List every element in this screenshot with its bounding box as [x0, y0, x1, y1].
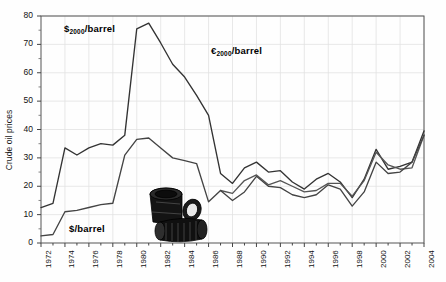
dollar2000-label: $2000/barrel — [64, 23, 115, 34]
y-tick-label-80: 80 — [11, 11, 33, 20]
x-tick-label-1974: 1974 — [68, 250, 76, 268]
x-tick-label-1986: 1986 — [212, 250, 220, 268]
x-tick-label-1982: 1982 — [164, 250, 172, 268]
y-axis-title-wrap: Crude oil prices — [2, 60, 16, 220]
x-tick-label-1998: 1998 — [356, 250, 364, 268]
y-tick-label-0: 0 — [11, 238, 33, 247]
x-tick-label-1976: 1976 — [92, 250, 100, 268]
x-tick-label-1994: 1994 — [308, 250, 316, 268]
x-tick-label-1996: 1996 — [332, 250, 340, 268]
y-tick-label-50: 50 — [11, 96, 33, 105]
y-tick-label-40: 40 — [11, 125, 33, 134]
x-tick-label-2000: 2000 — [380, 250, 388, 268]
y-tick-label-60: 60 — [11, 68, 33, 77]
x-tick-label-2002: 2002 — [404, 250, 412, 268]
chart-plot-area — [0, 0, 446, 282]
x-tick-label-1980: 1980 — [140, 250, 148, 268]
oil-barrels-illustration — [136, 182, 220, 244]
y-tick-label-70: 70 — [11, 39, 33, 48]
y-axis-title: Crude oil prices — [2, 60, 16, 220]
x-tick-label-1992: 1992 — [284, 250, 292, 268]
x-tick-label-1978: 1978 — [116, 250, 124, 268]
x-tick-label-1984: 1984 — [188, 250, 196, 268]
chart-figure: Crude oil prices 01020304050607080 19721… — [0, 0, 446, 282]
y-tick-label-20: 20 — [11, 181, 33, 190]
euro2000-label: €2000/barrel — [211, 45, 262, 56]
y-tick-label-10: 10 — [11, 210, 33, 219]
x-tick-label-1972: 1972 — [45, 250, 53, 268]
y-tick-label-30: 30 — [11, 153, 33, 162]
x-tick-label-1990: 1990 — [260, 250, 268, 268]
x-tick-label-1988: 1988 — [236, 250, 244, 268]
x-tick-label-2004: 2004 — [428, 250, 436, 268]
dollar-nominal-label: $/barrel — [69, 223, 105, 234]
